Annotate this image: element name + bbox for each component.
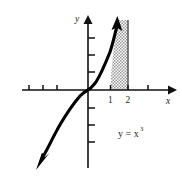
cubic-curve	[36, 16, 122, 170]
x-axis	[22, 85, 177, 95]
curve-down-arrowhead	[36, 153, 50, 171]
x-axis-label: x	[165, 96, 171, 106]
equation-annotation: y = x 3	[118, 125, 144, 139]
graph-figure: 1 2 y x y = x 3	[0, 0, 182, 182]
x-tick-label-1: 1	[108, 95, 113, 105]
cubic-function-plot: 1 2 y x y = x 3	[0, 0, 182, 182]
equation-base: y = x	[118, 128, 139, 139]
x-axis-arrowhead	[168, 86, 177, 95]
equation-exponent: 3	[140, 125, 144, 132]
x-tick-label-2: 2	[126, 95, 131, 105]
y-axis-label: y	[74, 14, 80, 24]
y-axis-arrowhead	[84, 15, 93, 24]
